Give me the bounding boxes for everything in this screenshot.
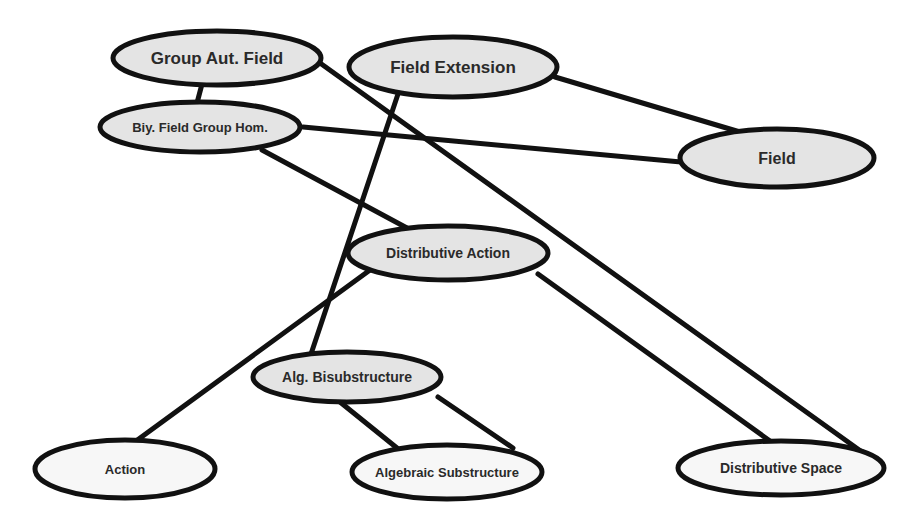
node-label: Field Extension — [390, 58, 516, 77]
node-field: Field — [680, 129, 874, 187]
node-label: Biy. Field Group Hom. — [132, 120, 268, 135]
node-group-aut-field: Group Aut. Field — [113, 31, 321, 85]
node-label: Distributive Action — [386, 245, 510, 261]
edge-biy-field-group-hom-to-field — [303, 127, 681, 162]
node-biy-field-group-hom: Biy. Field Group Hom. — [100, 102, 300, 152]
edge-alg-bisubstructure-to-algebraic-substructure — [340, 402, 397, 448]
node-label: Group Aut. Field — [151, 49, 284, 68]
edge-alg-bisubstructure-to-algebraic-substructure — [438, 397, 513, 448]
node-algebraic-substructure: Algebraic Substructure — [352, 445, 542, 499]
concept-diagram: Group Aut. FieldField ExtensionBiy. Fiel… — [0, 0, 923, 523]
node-action: Action — [35, 440, 215, 498]
edge-field-extension-to-field — [555, 77, 740, 132]
node-label: Action — [105, 462, 146, 477]
node-alg-bisubstructure: Alg. Bisubstructure — [253, 352, 441, 402]
node-distributive-space: Distributive Space — [678, 441, 884, 495]
node-field-extension: Field Extension — [349, 37, 557, 97]
edge-biy-field-group-hom-to-distributive-action — [262, 150, 407, 228]
node-label: Distributive Space — [720, 460, 842, 476]
node-label: Algebraic Substructure — [375, 465, 519, 480]
node-distributive-action: Distributive Action — [348, 226, 548, 280]
node-label: Alg. Bisubstructure — [282, 369, 412, 385]
edge-distributive-action-to-distributive-space — [538, 274, 770, 441]
node-label: Field — [758, 150, 795, 167]
